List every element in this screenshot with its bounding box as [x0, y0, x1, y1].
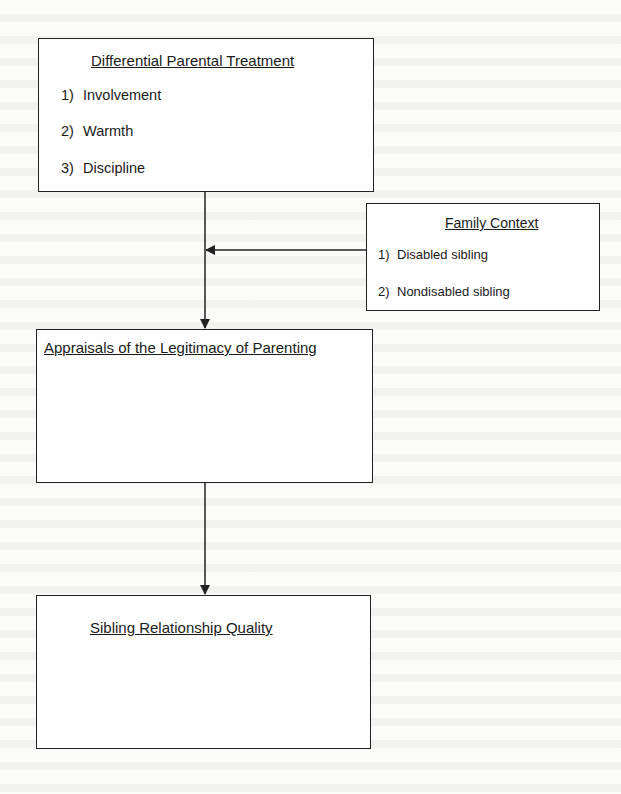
item-label: Warmth — [83, 123, 133, 139]
item-number: 2) — [378, 284, 397, 299]
item-number: 1) — [61, 87, 83, 103]
node-title: Sibling Relationship Quality — [90, 619, 273, 636]
list-item: 3)Discipline — [61, 160, 145, 176]
node-title: Family Context — [445, 215, 538, 231]
node-appraisals-legitimacy: Appraisals of the Legitimacy of Parentin… — [36, 329, 373, 483]
list-item: 1)Involvement — [61, 87, 161, 103]
list-item: 2)Warmth — [61, 123, 133, 139]
item-label: Disabled sibling — [397, 247, 488, 262]
item-number: 3) — [61, 160, 83, 176]
list-item: 1)Disabled sibling — [378, 247, 488, 262]
node-title: Appraisals of the Legitimacy of Parentin… — [44, 339, 317, 356]
list-item: 2)Nondisabled sibling — [378, 284, 510, 299]
item-label: Nondisabled sibling — [397, 284, 510, 299]
item-label: Discipline — [83, 160, 145, 176]
node-differential-parental-treatment: Differential Parental Treatment 1)Involv… — [38, 38, 374, 192]
item-label: Involvement — [83, 87, 161, 103]
node-sibling-relationship-quality: Sibling Relationship Quality — [36, 595, 371, 749]
item-number: 1) — [378, 247, 397, 262]
node-family-context: Family Context 1)Disabled sibling 2)Nond… — [366, 203, 600, 311]
item-number: 2) — [61, 123, 83, 139]
node-title: Differential Parental Treatment — [91, 52, 294, 69]
